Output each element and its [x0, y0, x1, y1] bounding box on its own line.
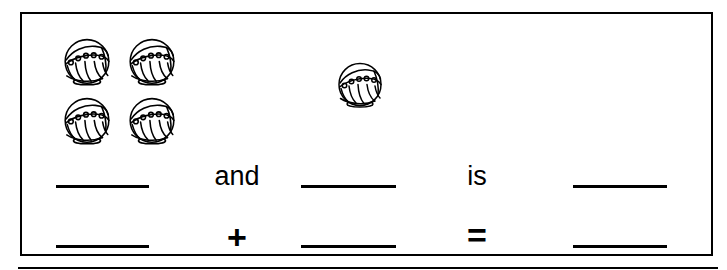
word-is: is [432, 163, 522, 190]
sentence-blank-3[interactable] [573, 185, 667, 188]
equation-blank-1[interactable] [56, 245, 149, 248]
sentence-blank-1[interactable] [56, 185, 149, 188]
decorated-ball-icon [335, 61, 385, 112]
equals-sign: = [432, 218, 522, 252]
equation-row: + = [22, 214, 715, 254]
worksheet-page: and is + = [0, 0, 727, 270]
equation-blank-3[interactable] [573, 245, 667, 248]
sentence-blank-2[interactable] [301, 185, 396, 188]
decorated-ball-icon [61, 37, 113, 90]
picture-group-right [332, 58, 388, 114]
equation-blank-2[interactable] [301, 245, 396, 248]
decorated-ball-icon [126, 37, 178, 90]
sentence-row: and is [22, 154, 715, 194]
page-divider-rule [18, 267, 718, 269]
problem-box: and is + = [20, 12, 713, 256]
decorated-ball-icon [61, 96, 113, 149]
plus-sign: + [192, 220, 282, 254]
picture-group-left [54, 34, 184, 152]
decorated-ball-icon [126, 96, 178, 149]
word-and: and [192, 163, 282, 190]
